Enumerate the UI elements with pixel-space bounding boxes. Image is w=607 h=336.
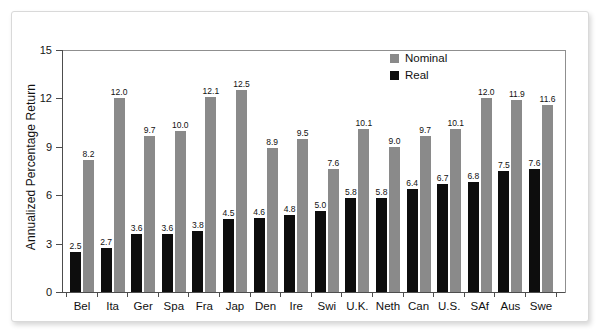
bar-value-label-nominal: 8.2 [74,150,104,159]
y-axis-tick-labels: 15129630 [0,0,52,336]
bar-value-label-nominal: 11.6 [533,95,563,104]
bar-value-label-nominal: 12.5 [227,80,257,89]
bar-real [284,215,295,292]
bar-nominal [358,129,369,292]
bar-group: 2.58.2 [70,50,94,292]
y-tick-label: 12 [6,93,52,103]
x-tick-mark [66,292,67,297]
bar-value-label-nominal: 7.6 [318,159,348,168]
bar-real [437,184,448,292]
bar-nominal [450,129,461,292]
y-tick-label: 3 [6,239,52,249]
legend-item: Nominal [390,51,447,65]
plot-right-border [565,50,566,293]
bar-value-label-nominal: 10.1 [349,119,379,128]
x-tick-mark [433,292,434,297]
bar-real [345,198,356,292]
bar-real [192,231,203,292]
bar-nominal [297,139,308,292]
y-tick-label: 0 [6,287,52,297]
bar-value-label-nominal: 12.0 [471,88,501,97]
bar-value-label-nominal: 11.9 [502,90,532,99]
legend-label: Nominal [405,52,447,64]
x-tick-mark [464,292,465,297]
bar-value-label-nominal: 8.9 [257,138,287,147]
bar-real [131,234,142,292]
y-tick-label: 9 [6,142,52,152]
bar-nominal [420,136,431,292]
bar-group: 5.810.1 [345,50,369,292]
x-category-label: Swe [519,300,563,312]
bar-group: 2.712.0 [101,50,125,292]
x-tick-mark [97,292,98,297]
bar-value-label-nominal: 9.5 [288,129,318,138]
bar-real [529,169,540,292]
bar-group: 6.710.1 [437,50,461,292]
bar-nominal [205,97,216,292]
bar-group: 6.49.7 [407,50,431,292]
x-tick-mark [250,292,251,297]
x-tick-mark [403,292,404,297]
x-tick-mark [341,292,342,297]
bar-value-label-nominal: 12.1 [196,87,226,96]
bar-group: 4.512.5 [223,50,247,292]
bar-real [498,171,509,292]
x-tick-mark [158,292,159,297]
x-tick-mark [127,292,128,297]
bar-nominal [236,90,247,292]
bar-nominal [389,147,400,292]
x-axis-line [62,292,566,293]
bar-nominal [175,131,186,292]
bar-nominal [542,105,553,292]
bar-real [70,252,81,292]
bar-nominal [83,160,94,292]
bar-value-label-nominal: 10.1 [441,119,471,128]
legend-label: Real [405,69,429,81]
bar-nominal [267,148,278,292]
x-tick-mark [219,292,220,297]
y-tick-mark [56,147,63,148]
y-tick-label: 6 [6,190,52,200]
bar-real [315,211,326,292]
x-tick-mark [188,292,189,297]
chart-legend: NominalReal [390,51,447,85]
y-tick-mark [56,195,63,196]
legend-swatch [390,54,399,63]
bar-group: 3.69.7 [131,50,155,292]
chart-figure: Annualized Percentage Return 15129630 2.… [0,0,607,336]
y-tick-mark [56,292,63,293]
bar-value-label-nominal: 12.0 [104,88,134,97]
bar-group: 7.611.6 [529,50,553,292]
x-tick-mark [311,292,312,297]
bar-group: 5.07.6 [315,50,339,292]
bar-real [223,219,234,292]
x-tick-mark [556,292,557,297]
x-tick-mark [525,292,526,297]
bar-group: 3.610.0 [162,50,186,292]
bar-value-label-nominal: 10.0 [165,121,195,130]
plot-area: 2.58.22.712.03.69.73.610.03.812.14.512.5… [62,50,565,292]
x-tick-mark [494,292,495,297]
bar-group: 7.511.9 [498,50,522,292]
y-tick-mark [56,98,63,99]
x-tick-mark [280,292,281,297]
x-tick-mark [372,292,373,297]
y-tick-mark [56,50,63,51]
bar-group: 6.812.0 [468,50,492,292]
bar-nominal [511,100,522,292]
bar-nominal [114,98,125,292]
bar-value-label-nominal: 9.7 [135,126,165,135]
bar-group: 4.89.5 [284,50,308,292]
bar-nominal [481,98,492,292]
bar-real [254,218,265,292]
bar-real [407,189,418,292]
bar-nominal [144,136,155,292]
bar-real [376,198,387,292]
y-tick-mark [56,244,63,245]
bar-group: 4.68.9 [254,50,278,292]
bar-group: 5.89.0 [376,50,400,292]
bar-real [101,248,112,292]
legend-swatch [390,71,399,80]
bar-value-label-nominal: 9.7 [410,126,440,135]
y-tick-label: 15 [6,45,52,55]
